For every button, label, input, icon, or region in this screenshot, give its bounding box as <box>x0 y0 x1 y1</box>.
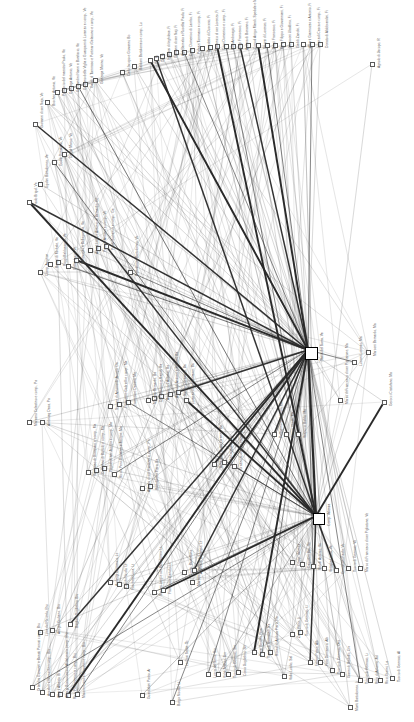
graph-node[interactable] <box>296 432 301 437</box>
graph-node[interactable] <box>128 270 133 275</box>
graph-hub-node[interactable] <box>313 513 325 525</box>
graph-node[interactable] <box>52 160 57 165</box>
graph-node-label: Francesco Desanti, Ma <box>134 372 137 406</box>
graph-node[interactable] <box>190 580 195 585</box>
graph-node-label: Monti Bartolomeo, Li <box>356 681 359 711</box>
graph-edge <box>119 45 258 584</box>
graph-node-label: Poggi Baldassarre, Ve <box>64 233 67 266</box>
graph-node[interactable] <box>140 693 145 698</box>
graph-node-label: Rosaci di Andrea Piero, Na <box>276 616 279 656</box>
graph-node[interactable] <box>346 566 351 571</box>
graph-node-label: Gianni di Rodolfo, Civ <box>348 646 351 678</box>
graph-node[interactable] <box>390 676 395 681</box>
graph-node[interactable] <box>358 566 363 571</box>
graph-node-label: Benedetto di Duccerio, Fi <box>208 15 211 52</box>
graph-edge <box>42 422 119 584</box>
graph-node[interactable] <box>140 486 145 491</box>
graph-node[interactable] <box>290 632 295 637</box>
graph-edge <box>163 48 202 590</box>
graph-node[interactable] <box>252 650 257 655</box>
graph-node-label: Maiorini Lapo e Giovanni e comp., Bru <box>83 642 86 698</box>
graph-node-label: Corsi Domenico e comp., Fi <box>223 9 226 50</box>
graph-node[interactable] <box>27 420 32 425</box>
graph-node[interactable] <box>88 248 93 253</box>
graph-node[interactable] <box>146 398 151 403</box>
graph-edge <box>126 586 142 695</box>
graph-node[interactable] <box>68 622 73 627</box>
graph-node-label: Tuccio di Tommaso, Na <box>268 624 271 658</box>
graph-node[interactable] <box>184 398 189 403</box>
graph-node-label: Sacchi Cristofano, Ba <box>184 364 187 396</box>
graph-node-label: Di ser Domenico di Lambo, Fi <box>190 13 193 56</box>
graph-edge <box>316 402 384 516</box>
graph-edge <box>52 48 202 630</box>
graph-node-label: Gaddi Zanobi, Fi <box>297 24 300 48</box>
graph-node[interactable] <box>282 674 287 679</box>
graph-node[interactable] <box>86 470 91 475</box>
graph-edge <box>162 56 308 350</box>
graph-node-label: Marzano Celestino e comp., Pa <box>35 380 38 426</box>
graph-node[interactable] <box>308 660 313 665</box>
graph-hub-node[interactable] <box>305 347 318 360</box>
graph-node-label: Comp. Valenza <box>298 544 301 566</box>
graph-node-label: Ricci Filippo e Giovanniani, Fi <box>281 6 284 49</box>
graph-node[interactable] <box>330 668 335 673</box>
graph-node[interactable] <box>108 404 113 409</box>
graph-node[interactable] <box>348 705 353 710</box>
graph-node-label: Simone di Antonio di Jacopo, Da <box>116 362 119 410</box>
graph-edge <box>240 46 308 350</box>
graph-node-label: Sabba Leopoldo, Ba <box>230 436 233 466</box>
graph-node-label: Boni Andreagio, Fi <box>232 23 235 50</box>
graph-node[interactable] <box>27 200 32 205</box>
graph-node[interactable] <box>322 566 327 571</box>
graph-node[interactable] <box>178 660 183 665</box>
graph-node[interactable] <box>148 58 153 63</box>
graph-edge <box>35 124 308 350</box>
graph-node-label: Lucca del Serra, Sm <box>214 648 217 678</box>
graph-node[interactable] <box>366 350 371 355</box>
graph-node[interactable] <box>38 182 43 187</box>
graph-node-label: Paolo Brigol, Ve <box>35 183 38 206</box>
graph-node[interactable] <box>182 570 187 575</box>
graph-node-label: Arriguccio d'Antonio, Ba <box>167 365 170 400</box>
graph-node[interactable] <box>108 580 113 585</box>
graph-node[interactable] <box>382 400 387 405</box>
graph-node-label: Goccandini Nanni e Bonifacio, Ve <box>77 43 80 92</box>
graph-node[interactable] <box>152 590 157 595</box>
graph-node[interactable] <box>338 398 343 403</box>
graph-node[interactable] <box>301 42 306 47</box>
graph-edge <box>95 80 313 566</box>
graph-node[interactable] <box>212 462 217 467</box>
graph-node[interactable] <box>45 100 50 105</box>
graph-node-label: Bartolomeo Piero, Ba <box>156 459 159 490</box>
graph-node[interactable] <box>38 270 43 275</box>
graph-edge <box>134 66 308 350</box>
graph-node[interactable] <box>170 700 175 705</box>
graph-node-label: Alberti Giannozzo e Antonio, Fi <box>309 3 312 48</box>
graph-node[interactable] <box>290 560 295 565</box>
graph-node[interactable] <box>33 122 38 127</box>
graph-node-label: Donato di Aldobrandini, Fi <box>326 10 329 48</box>
graph-node[interactable] <box>112 472 117 477</box>
graph-node[interactable] <box>334 568 339 573</box>
graph-node-label: Facchetti Luca, Lt <box>132 564 135 590</box>
graph-edge <box>303 44 368 352</box>
graph-node[interactable] <box>284 432 289 437</box>
graph-node-label: Ridolfi Antonio, Ve <box>319 543 322 570</box>
graph-node[interactable] <box>272 432 277 437</box>
graph-node[interactable] <box>120 70 125 75</box>
graph-edge <box>76 260 192 582</box>
graph-node[interactable] <box>352 360 357 365</box>
graph-node-label: Vespucci Baldo, Ma <box>304 409 307 438</box>
graph-node-label: Di Ruffino di Bartolo e comp., Ma <box>102 426 105 474</box>
graph-node[interactable] <box>370 62 375 67</box>
graph-node[interactable] <box>132 64 137 69</box>
graph-node[interactable] <box>50 628 55 633</box>
graph-node[interactable] <box>311 564 316 569</box>
graph-node[interactable] <box>206 672 211 677</box>
graph-node[interactable] <box>30 685 35 690</box>
graph-node-label: Tuccio di Gennaio, Ve <box>354 540 357 572</box>
graph-node-label: Conge Ubaldi, Ma <box>292 412 295 438</box>
graph-node-label: Agli Barnabo e Rucellai Paolo, Fi <box>182 8 185 56</box>
graph-node[interactable] <box>40 420 45 425</box>
